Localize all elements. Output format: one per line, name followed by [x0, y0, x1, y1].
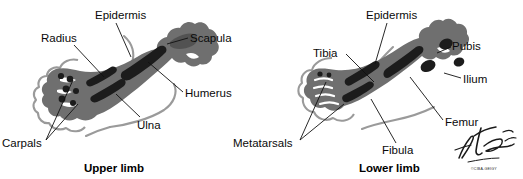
tarsal-bone — [327, 73, 332, 78]
panel-title-lower-limb: Lower limb — [359, 162, 420, 174]
figure-canvas: Epidermis Radius Scapula Humerus Ulna Ca… — [0, 0, 523, 179]
panel-title-upper-limb: Upper limb — [84, 162, 144, 174]
ischium-bone — [419, 58, 438, 75]
label-femur: Femur — [445, 116, 478, 128]
leader-ulna — [116, 94, 140, 117]
label-ilium: Ilium — [463, 73, 487, 85]
artist-signature — [455, 127, 516, 162]
limb-development-artwork — [0, 0, 523, 179]
label-carpals: Carpals — [2, 137, 42, 149]
carpal-bone — [63, 86, 70, 93]
lower-limb-mesenchyme — [304, 19, 469, 111]
label-scapula: Scapula — [190, 32, 232, 44]
label-ulna: Ulna — [137, 119, 161, 131]
copyright-notice: ©CIBA-GEIGY — [471, 167, 497, 171]
label-humerus: Humerus — [185, 87, 232, 99]
label-metatarsals: Metatarsals — [233, 137, 292, 149]
lower-limb-figure — [298, 19, 469, 143]
tarsal-bone — [317, 71, 322, 76]
carpal-bone — [73, 88, 79, 94]
leader-ilium — [444, 73, 461, 78]
carpal-bone — [58, 73, 64, 79]
label-epidermis-lower: Epidermis — [366, 9, 417, 21]
label-tibia: Tibia — [313, 47, 338, 59]
ilium-bone — [453, 56, 466, 68]
leader-humerus — [148, 62, 183, 92]
label-fibula: Fibula — [382, 144, 413, 156]
label-radius: Radius — [41, 32, 77, 44]
carpal-bone — [70, 100, 76, 106]
label-pubis: Pubis — [452, 40, 481, 52]
label-epidermis-upper: Epidermis — [95, 9, 146, 21]
leader-femur — [410, 77, 443, 120]
